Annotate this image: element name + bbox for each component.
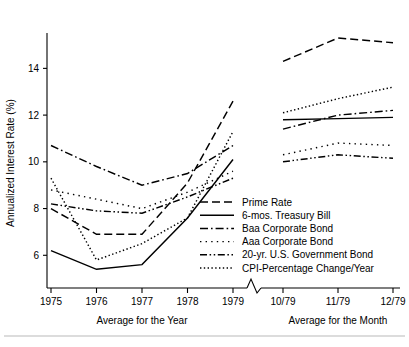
chart-figure: 681012141975197619771978197910/7911/7912… (0, 0, 409, 347)
x-axis-tick-label: 10/79 (270, 296, 295, 307)
series-line-month (283, 117, 393, 119)
series-line-month (283, 143, 393, 155)
series-group (51, 38, 393, 269)
series-line-year (51, 146, 233, 186)
series-line-year (51, 101, 233, 234)
y-axis-tick-label: 8 (33, 203, 39, 214)
series-line-year (51, 171, 233, 208)
x-axis-tick-label: 1976 (85, 296, 108, 307)
legend-label: Aaa Corporate Bond (242, 236, 333, 247)
x-axis-break-icon (247, 279, 261, 293)
x-axis-tick-label: 1977 (131, 296, 154, 307)
legend-label: 20-yr. U.S. Government Bond (242, 249, 373, 260)
y-axis-title: Annualized Interest Rate (%) (5, 99, 16, 227)
x-axis-title-left: Average for the Year (97, 315, 189, 326)
series-line-month (283, 38, 393, 61)
series-line-month (283, 155, 393, 162)
x-axis-tick-label: 12/79 (380, 296, 405, 307)
interest-rate-line-chart: 681012141975197619771978197910/7911/7912… (0, 0, 409, 347)
x-axis-title-right: Average for the Month (289, 315, 388, 326)
legend-label: CPI-Percentage Change/Year (242, 263, 375, 274)
series-line-month (283, 87, 393, 113)
legend-label: Baa Corporate Bond (242, 223, 333, 234)
x-axis-tick-label: 1975 (40, 296, 63, 307)
y-axis-tick-label: 10 (28, 156, 40, 167)
x-axis-tick-label: 1979 (222, 296, 245, 307)
series-line-year (51, 160, 233, 270)
x-axis-tick-label: 11/79 (326, 296, 351, 307)
legend-label: 6-mos. Treasury Bill (242, 210, 330, 221)
legend-label: Prime Rate (242, 197, 292, 208)
y-axis-tick-label: 12 (28, 110, 40, 121)
x-axis-tick-label: 1978 (176, 296, 199, 307)
y-axis-tick-label: 14 (28, 63, 40, 74)
series-line-year (51, 132, 233, 261)
legend: Prime Rate6-mos. Treasury BillBaa Corpor… (200, 197, 375, 274)
axes-group: 681012141975197619771978197910/7911/7912… (5, 33, 406, 326)
y-axis-tick-label: 6 (33, 250, 39, 261)
